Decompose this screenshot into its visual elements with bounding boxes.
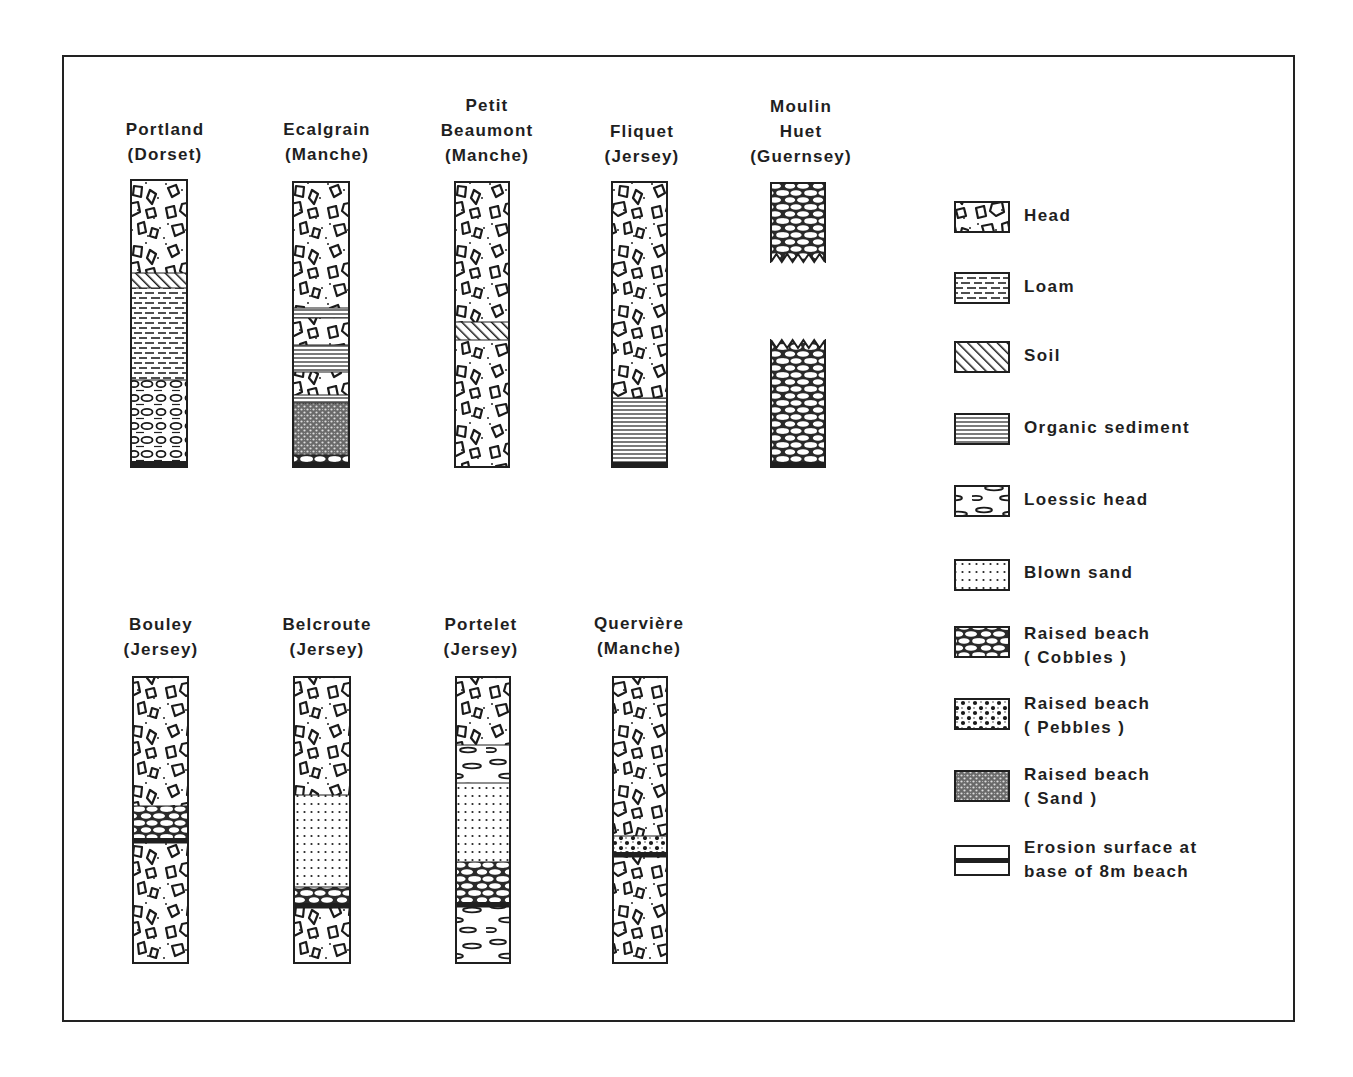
columns-layer: [131, 180, 825, 963]
layer-head: [133, 843, 188, 963]
legend-swatch-blown: [955, 560, 1009, 590]
legend-label: Raised beach: [1024, 692, 1150, 716]
legend-label-sub: ( Cobbles ): [1024, 646, 1127, 670]
layer-pebbles: [613, 836, 667, 852]
legend-swatch-loessic: [955, 486, 1009, 516]
layer-loam: [131, 288, 187, 380]
layer-head: [293, 372, 349, 395]
column-region: (Manche): [247, 142, 407, 167]
layer-soil: [455, 322, 509, 340]
layer-soil: [131, 273, 187, 288]
legend-label: Organic sediment: [1024, 416, 1190, 440]
layer-head: [613, 857, 667, 963]
legend-label: Raised beach: [1024, 622, 1150, 646]
legend-swatch-erosion: [955, 846, 1009, 875]
legend-label: Blown sand: [1024, 561, 1133, 585]
legend-label-sub: base of 8m beach: [1024, 860, 1189, 884]
legend-label: Head: [1024, 204, 1071, 228]
layer-cobbles: [456, 862, 510, 902]
layer-organic: [293, 395, 349, 403]
column-name: Bouley: [81, 612, 241, 637]
column-title-petit-beaumont: Petit Beaumont (Manche): [407, 93, 567, 168]
layer-organic: [612, 398, 667, 462]
layer-loessic: [456, 907, 510, 963]
layer-cobbles: [771, 340, 825, 462]
column-name-line2: Huet: [721, 119, 881, 144]
column-title-querviere: Quervière (Manche): [559, 611, 719, 661]
legend-swatch-loam: [955, 273, 1009, 303]
column-petit: [455, 182, 509, 467]
erosion-surface: [456, 902, 510, 907]
erosion-surface: [613, 852, 667, 857]
layer-head: [455, 340, 509, 467]
column-moulin: [771, 183, 825, 467]
column-name: Petit: [407, 93, 567, 118]
layer-loessic: [456, 745, 510, 783]
layer-cobbles: [133, 806, 188, 838]
column-belcroute: [294, 677, 350, 963]
legend-swatch-sand: [955, 771, 1009, 801]
layer-organic: [293, 308, 349, 318]
layer-cobbles: [294, 887, 350, 903]
column-title-fliquet: Fliquet (Jersey): [562, 119, 722, 169]
layer-sand: [293, 403, 349, 455]
column-region: (Jersey): [81, 637, 241, 662]
legend-label: Erosion surface at: [1024, 836, 1198, 860]
erosion-surface: [133, 838, 188, 843]
column-name: Fliquet: [562, 119, 722, 144]
column-ecalgrain: [293, 182, 349, 467]
legend-swatch-cobbles: [955, 627, 1009, 657]
layer-head: [293, 318, 349, 345]
layer-blown: [456, 783, 510, 862]
column-name-line2: Beaumont: [407, 118, 567, 143]
column-name: Quervière: [559, 611, 719, 636]
layer-cobbles: [293, 455, 349, 462]
column-title-bouley: Bouley (Jersey): [81, 612, 241, 662]
legend-swatch-soil: [955, 342, 1009, 372]
column-region: (Manche): [407, 143, 567, 168]
layer-cobbles: [771, 183, 825, 262]
column-portland: [131, 180, 187, 467]
legend-label: Loam: [1024, 275, 1075, 299]
column-fliquet: [612, 182, 667, 467]
erosion-surface: [294, 903, 350, 908]
layer-head: [455, 182, 509, 322]
column-name: Portland: [85, 117, 245, 142]
legend-swatches: [955, 202, 1009, 875]
column-name: Moulin: [721, 94, 881, 119]
column-title-ecalgrain: Ecalgrain (Manche): [247, 117, 407, 167]
column-name: Ecalgrain: [247, 117, 407, 142]
layer-loessic: [131, 380, 187, 461]
layer-head: [131, 180, 187, 273]
column-region: (Jersey): [247, 637, 407, 662]
legend-label: Loessic head: [1024, 488, 1149, 512]
column-title-portland: Portland (Dorset): [85, 117, 245, 167]
column-region: (Dorset): [85, 142, 245, 167]
layer-head: [613, 677, 667, 836]
layer-head: [294, 677, 350, 795]
layer-head: [133, 677, 188, 806]
legend-label: Raised beach: [1024, 763, 1150, 787]
column-quervi-re: [613, 677, 667, 963]
column-portelet: [456, 677, 510, 963]
legend-swatch-organic: [955, 414, 1009, 444]
legend-label-sub: ( Sand ): [1024, 787, 1098, 811]
column-name: Portelet: [401, 612, 561, 637]
layer-head: [456, 677, 510, 745]
layer-head: [612, 182, 667, 398]
legend-swatch-head: [955, 202, 1009, 232]
column-region: (Manche): [559, 636, 719, 661]
layer-head: [294, 908, 350, 963]
legend-label-sub: ( Pebbles ): [1024, 716, 1125, 740]
column-title-belcroute: Belcroute (Jersey): [247, 612, 407, 662]
layer-blown: [294, 795, 350, 887]
layer-head: [293, 182, 349, 308]
column-name: Belcroute: [247, 612, 407, 637]
column-title-moulin-huet: Moulin Huet (Guernsey): [721, 94, 881, 169]
layer-organic: [293, 345, 349, 372]
column-region: (Guernsey): [721, 144, 881, 169]
legend-swatch-pebbles: [955, 699, 1009, 729]
column-region: (Jersey): [562, 144, 722, 169]
legend-label: Soil: [1024, 344, 1061, 368]
column-region: (Jersey): [401, 637, 561, 662]
